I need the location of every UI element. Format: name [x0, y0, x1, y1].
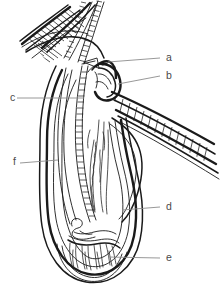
- label-group: a b c d e f: [10, 51, 172, 263]
- label-b[interactable]: b: [118, 69, 172, 84]
- arrector-pili-hatched-band: [112, 92, 219, 179]
- dermal-papilla: [68, 218, 120, 248]
- leader-line-e: [108, 257, 160, 258]
- label-e[interactable]: e: [108, 251, 172, 263]
- label-text-b: b: [166, 69, 172, 81]
- leader-line-b: [118, 76, 160, 84]
- diagram-canvas: a b c d e f: [0, 0, 223, 292]
- inner-root-sheath: [58, 66, 96, 224]
- leader-line-a: [108, 58, 160, 62]
- label-text-d: d: [166, 200, 172, 212]
- label-f[interactable]: f: [13, 155, 58, 167]
- label-text-e: e: [166, 251, 172, 263]
- leader-line-f: [20, 160, 58, 163]
- leader-line-d: [122, 207, 160, 210]
- epidermis-hatched-band: [20, 5, 104, 62]
- hair-shaft: [42, 1, 104, 64]
- label-c[interactable]: c: [10, 91, 84, 103]
- label-text-f: f: [13, 155, 16, 167]
- label-text-a: a: [166, 51, 172, 63]
- matrix-fibers: [70, 243, 116, 270]
- label-a[interactable]: a: [108, 51, 172, 63]
- hair-follicle-diagram: a b c d e f: [0, 0, 223, 292]
- hair-root-core: [88, 120, 109, 214]
- label-text-c: c: [10, 91, 15, 103]
